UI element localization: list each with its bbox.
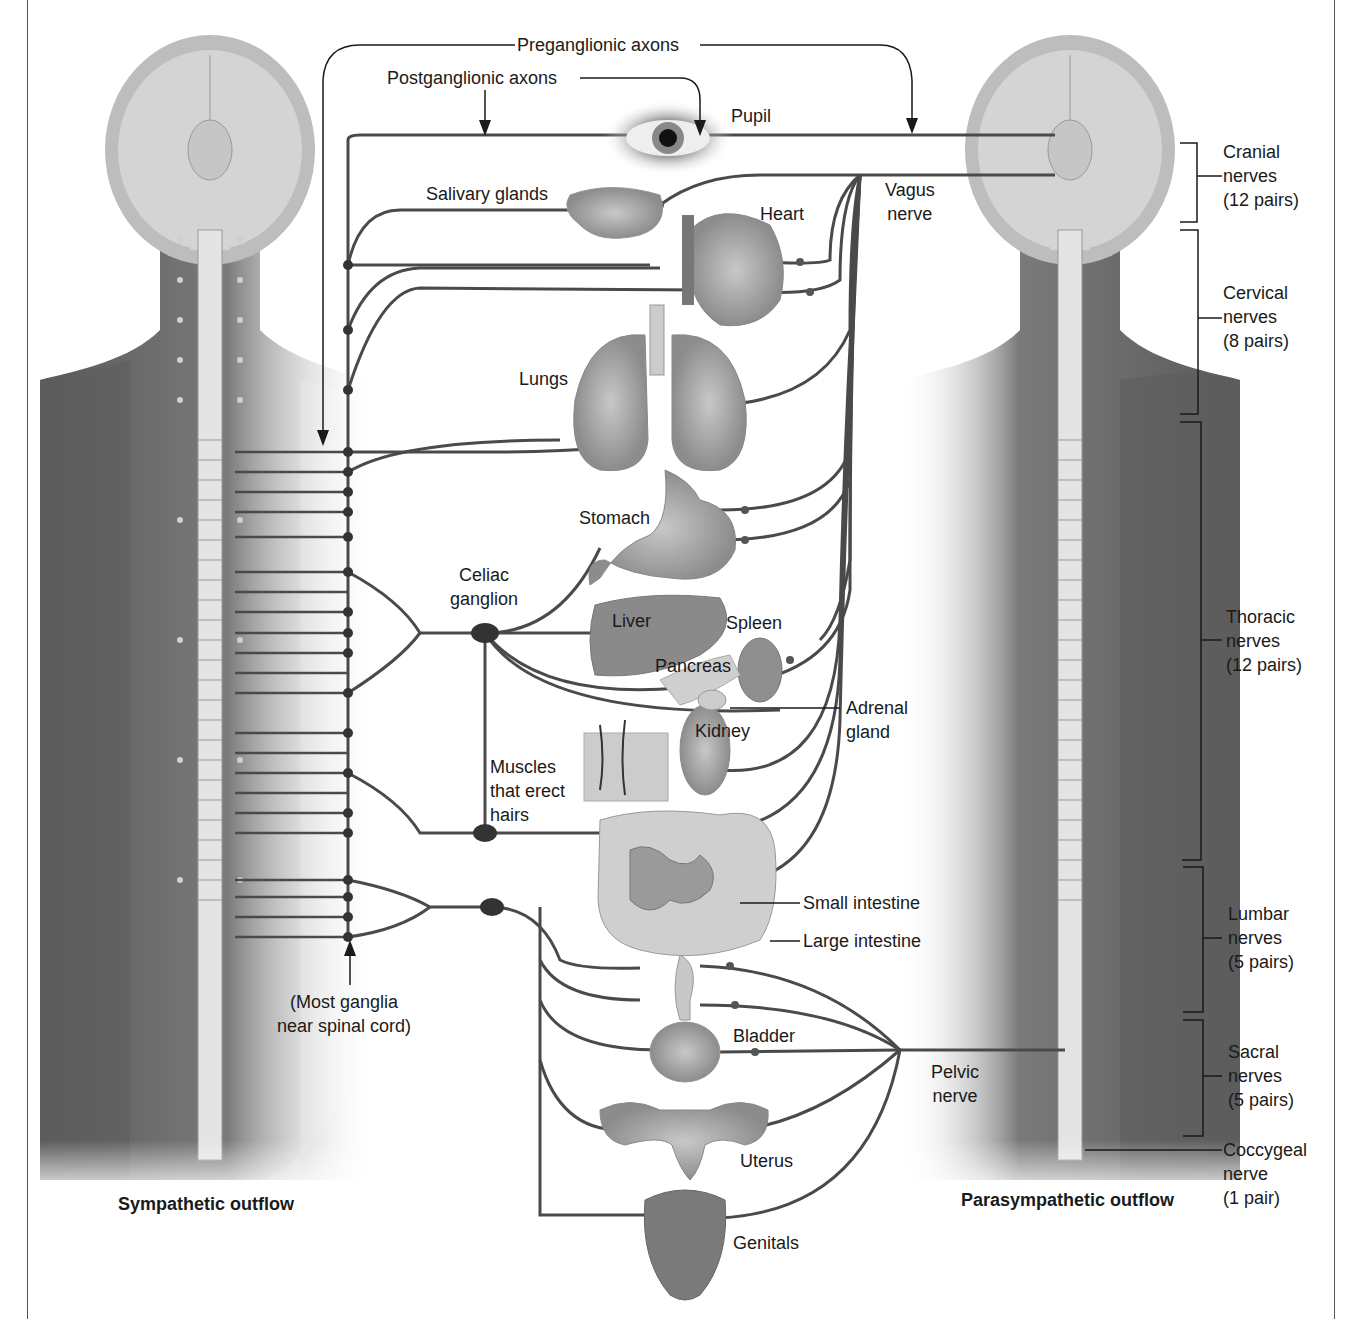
sympathetic-outflow-title: Sympathetic outflow xyxy=(118,1192,294,1216)
large-intestine-label: Large intestine xyxy=(803,929,921,953)
pelvic-nerve-label: Pelvic nerve xyxy=(931,1060,979,1108)
pupil-label: Pupil xyxy=(731,104,771,128)
thoracic-nerves-label: Thoracic nerves (12 pairs) xyxy=(1226,605,1302,677)
intestines xyxy=(598,811,776,1020)
salivary-glands-label: Salivary glands xyxy=(426,182,548,206)
sacral-nerves-label: Sacral nerves (5 pairs) xyxy=(1228,1040,1294,1112)
heart xyxy=(682,214,783,326)
liver-label: Liver xyxy=(612,609,651,633)
parasympathetic-outflow-title: Parasympathetic outflow xyxy=(961,1188,1174,1212)
most-ganglia-label: (Most ganglia near spinal cord) xyxy=(277,990,411,1038)
stomach-label: Stomach xyxy=(579,506,650,530)
bladder xyxy=(650,1022,720,1082)
spleen xyxy=(738,638,782,702)
heart-label: Heart xyxy=(760,202,804,226)
cervical-nerves-label: Cervical nerves (8 pairs) xyxy=(1223,281,1289,353)
postganglionic-axons-label: Postganglionic axons xyxy=(387,66,557,90)
pancreas-label: Pancreas xyxy=(655,654,731,678)
celiac-ganglion-label: Celiac ganglion xyxy=(450,563,518,611)
coccygeal-nerve-label: Coccygeal nerve (1 pair) xyxy=(1223,1138,1307,1210)
genitals-label: Genitals xyxy=(733,1231,799,1255)
eye xyxy=(603,100,733,176)
bladder-label: Bladder xyxy=(733,1024,795,1048)
kidney-label: Kidney xyxy=(695,719,750,743)
lungs xyxy=(574,305,747,471)
uterus-label: Uterus xyxy=(740,1149,793,1173)
lungs-label: Lungs xyxy=(519,367,568,391)
muscles-erect-hairs-label: Muscles that erect hairs xyxy=(490,755,565,827)
salivary-glands xyxy=(567,188,663,239)
preganglionic-axons-label: Preganglionic axons xyxy=(517,33,679,57)
small-intestine-label: Small intestine xyxy=(803,891,920,915)
spleen-label: Spleen xyxy=(726,611,782,635)
genitals xyxy=(644,1190,725,1300)
lumbar-nerves-label: Lumbar nerves (5 pairs) xyxy=(1228,902,1294,974)
skin-hair xyxy=(584,720,668,801)
vagus-nerve-label: Vagus nerve xyxy=(885,178,935,226)
adrenal-gland-label: Adrenal gland xyxy=(846,696,908,744)
cranial-nerves-label: Cranial nerves (12 pairs) xyxy=(1223,140,1299,212)
